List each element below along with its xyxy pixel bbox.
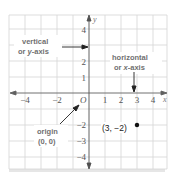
vertical-label: vertical <box>22 37 48 46</box>
x-tick: −4 <box>20 95 30 105</box>
x-tick: 1 <box>103 95 108 105</box>
arrow-to-x-axis <box>132 72 136 92</box>
y-tick: −4 <box>76 152 86 162</box>
y-axis <box>87 15 91 169</box>
y-tick: 1 <box>82 73 87 83</box>
x-tick-labels: −4 −2 1 2 3 4 <box>20 95 156 105</box>
origin-coords-label: (0, 0) <box>38 137 56 146</box>
y-tick: −3 <box>76 136 86 146</box>
x-tick: 4 <box>151 95 156 105</box>
y-axis-label: y <box>92 15 97 24</box>
point-label: (3, −2) <box>102 123 127 133</box>
x-axis <box>10 91 167 95</box>
horizontal-label: horizontal <box>112 53 148 62</box>
panel-shadow <box>9 169 165 172</box>
y-tick: 2 <box>82 57 87 67</box>
plotted-point <box>135 123 139 127</box>
coordinate-plane-diagram: y x −4 −2 1 2 3 4 4 2 1 −2 −3 −4 O verti… <box>0 0 179 184</box>
x-axis-annotation: or x-axis <box>114 63 145 72</box>
arrow-to-y-axis <box>62 45 88 49</box>
x-tick: 3 <box>135 95 140 105</box>
x-axis-label: x <box>162 95 167 104</box>
y-tick: −2 <box>76 120 86 130</box>
y-axis-annotation: or y-axis <box>18 47 49 56</box>
x-tick: −2 <box>52 95 62 105</box>
origin-symbol: O <box>80 95 87 105</box>
x-tick: 2 <box>119 95 124 105</box>
origin-label: origin <box>37 127 58 136</box>
y-tick: 4 <box>82 25 87 35</box>
